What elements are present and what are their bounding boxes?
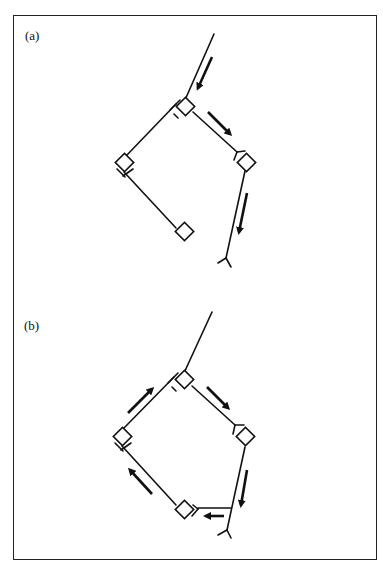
lower-left-line (124, 172, 176, 228)
stem-line (185, 34, 214, 100)
lower-left-line (122, 446, 176, 505)
arrow-to-terminal (241, 470, 247, 505)
arrow-right-branch (207, 387, 228, 408)
arrow-right-branch (208, 112, 230, 134)
diagram-canvas (0, 0, 383, 572)
panel-b-diagram (113, 312, 254, 538)
unit-square-bottom (175, 222, 193, 240)
arrow-up-lower-left (130, 470, 152, 494)
left-upper-line (124, 377, 174, 428)
unit-square-bottom (175, 500, 193, 518)
arrow-down-stem (198, 57, 212, 88)
unit-square-right (237, 153, 255, 171)
terminal-fork-icon (218, 530, 227, 535)
arrow-to-terminal (239, 193, 247, 232)
left-branch-line (126, 104, 176, 156)
terminal-line (227, 447, 245, 530)
unit-square-right (236, 427, 254, 445)
stem-line (184, 312, 212, 373)
panel-a-diagram (115, 34, 255, 267)
arrow-up-left-branch (128, 389, 152, 413)
terminal-fork-icon (218, 258, 226, 263)
